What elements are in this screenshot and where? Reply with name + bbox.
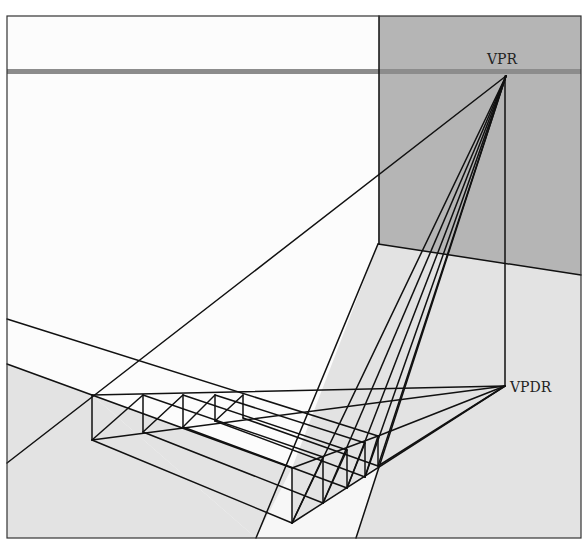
- label-vpr: VPR: [486, 51, 518, 67]
- label-vpdr: VPDR: [509, 379, 552, 395]
- perspective-diagram: VPR VPDR: [0, 0, 587, 550]
- horizon-line: [7, 69, 581, 74]
